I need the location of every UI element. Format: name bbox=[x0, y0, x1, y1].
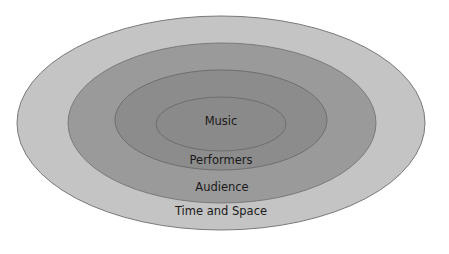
audience-label: Audience bbox=[195, 180, 248, 194]
nested-ellipse-diagram: Music Performers Audience Time and Space bbox=[0, 0, 449, 254]
performers-label: Performers bbox=[190, 153, 253, 167]
music-label: Music bbox=[205, 114, 238, 128]
time-and-space-label: Time and Space bbox=[174, 204, 267, 218]
